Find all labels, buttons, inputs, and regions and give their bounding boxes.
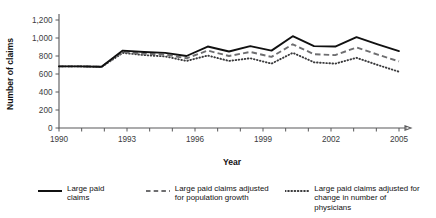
- x-tick-label: 2005: [390, 135, 409, 144]
- dotted-line-swatch-icon: [285, 186, 309, 196]
- x-tick-label: 1990: [50, 135, 69, 144]
- legend-label-large-paid-claims: Large paid claims: [67, 184, 104, 203]
- legend-item-physician-adjusted: Large paid claims adjusted for change in…: [285, 184, 425, 212]
- x-tick-label: 2002: [322, 135, 341, 144]
- x-axis-ticks: 199019931996199920022005: [50, 128, 409, 144]
- x-tick-label: 1996: [186, 135, 205, 144]
- y-tick-label: 200: [39, 106, 53, 115]
- chart-legend: Large paid claims Large paid claims adju…: [0, 184, 436, 218]
- y-tick-label: 1,000: [32, 34, 53, 43]
- y-tick-label: 400: [39, 88, 53, 97]
- x-tick-label: 1999: [254, 135, 273, 144]
- legend-item-population-adjusted: Large paid claims adjusted for populatio…: [146, 184, 275, 203]
- legend-label-population-adjusted: Large paid claims adjusted for populatio…: [175, 184, 269, 203]
- y-axis-ticks: 02004006008001,0001,200: [32, 16, 59, 133]
- y-tick-label: 0: [48, 124, 53, 133]
- y-tick-label: 1,200: [32, 16, 53, 25]
- y-axis-title: Number of claims: [5, 38, 15, 110]
- y-tick-label: 600: [39, 70, 53, 79]
- legend-label-physician-adjusted: Large paid claims adjusted for change in…: [314, 184, 425, 212]
- x-axis-title: Year: [223, 157, 242, 167]
- dashed-line-swatch-icon: [146, 186, 170, 196]
- chart-container: 02004006008001,0001,200 1990199319961999…: [0, 0, 436, 218]
- solid-line-swatch-icon: [38, 186, 62, 196]
- legend-item-large-paid-claims: Large paid claims: [38, 184, 135, 203]
- axis-lines: [59, 14, 407, 128]
- x-tick-label: 1993: [118, 135, 137, 144]
- y-tick-label: 800: [39, 52, 53, 61]
- series-line-population-adjusted: [59, 44, 399, 67]
